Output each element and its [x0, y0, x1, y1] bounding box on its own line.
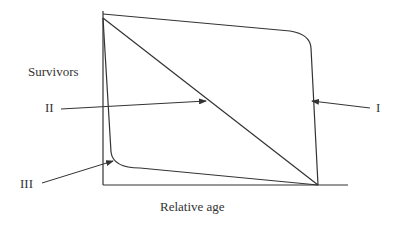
survivorship-diagram	[0, 0, 400, 226]
arrow-I	[312, 101, 370, 108]
curve-label-II: II	[45, 100, 54, 116]
y-axis-label: Survivors	[28, 64, 79, 80]
arrow-III	[42, 161, 113, 183]
curve-II	[103, 18, 318, 185]
curve-label-III: III	[20, 176, 33, 192]
curve-label-I: I	[376, 100, 380, 116]
x-axis-label: Relative age	[160, 199, 225, 215]
arrow-II	[61, 101, 206, 109]
